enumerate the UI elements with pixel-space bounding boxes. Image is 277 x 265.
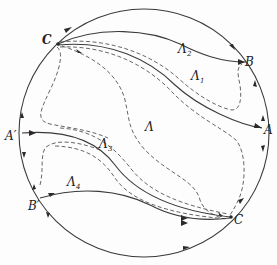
label-lambda: Λ <box>144 120 154 134</box>
label-lambda-1: Λ <box>190 69 200 83</box>
boundary-arrow-right-lower <box>261 115 265 121</box>
label-lambda-3-sub: 3 <box>108 145 113 153</box>
label-lambda-4: Λ <box>66 175 76 189</box>
label-lambda-3: Λ <box>98 137 108 151</box>
lambda-4-arrow-end <box>181 220 188 226</box>
label-c-top: C <box>42 33 52 47</box>
point-c-bottom-marker <box>229 215 233 219</box>
label-lambda-1-sub: 1 <box>200 77 204 85</box>
dashed-lambda-3-lower <box>55 146 228 219</box>
boundary-arrow-right-up <box>253 80 257 87</box>
curve-lambda-2 <box>58 32 246 62</box>
phase-portrait: C B A A′ B′ C Λ 2 Λ 1 Λ Λ 3 Λ 4 <box>0 0 277 265</box>
label-a: A <box>263 123 273 137</box>
lambda-1-arrow <box>254 123 262 128</box>
boundary-arrow-left-up <box>22 152 26 158</box>
label-lambda-2-sub: 2 <box>186 50 192 58</box>
label-lambda-4-sub: 4 <box>75 183 80 191</box>
boundary-arrow-lower-right <box>238 198 244 204</box>
lambda-dashed-arrow-top <box>76 49 82 53</box>
dashed-lambda-1-upper <box>60 41 242 110</box>
dashed-left-loop-upper <box>41 47 108 138</box>
boundary-arrow-bprime-down <box>46 212 50 218</box>
boundary-arrow-bprime-up <box>32 184 36 190</box>
point-c-top-marker <box>56 42 60 46</box>
lambda-3-arrow-start <box>29 130 36 136</box>
label-a-prime: A′ <box>4 129 17 143</box>
label-lambda-2: Λ <box>177 42 187 56</box>
diagram-canvas: C B A A′ B′ C Λ 2 Λ 1 Λ Λ 3 Λ 4 <box>0 0 277 265</box>
label-b-prime: B′ <box>27 199 40 213</box>
label-b: B <box>244 55 254 69</box>
curve-lambda-3 <box>22 132 230 217</box>
curve-lambda-1 <box>58 44 262 128</box>
boundary-arrow-right-down <box>261 145 265 152</box>
label-c-bottom: C <box>234 213 243 227</box>
curve-lambda-4 <box>40 191 230 220</box>
